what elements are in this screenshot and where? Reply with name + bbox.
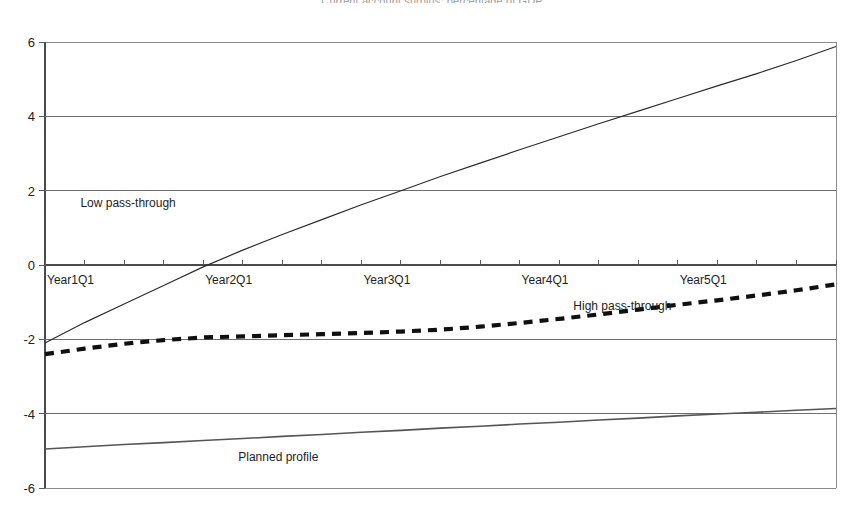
series-label-low-pass-through: Low pass-through bbox=[80, 196, 175, 210]
chart-plot-area: 6420-2-4-6 Year1Q1Year2Q1Year3Q1Year4Q1Y… bbox=[0, 0, 864, 518]
series-label-high-pass-through: High pass-through bbox=[573, 299, 671, 313]
x-tick-label-year3q1: Year3Q1 bbox=[363, 273, 410, 287]
y-tick-label: -6 bbox=[23, 481, 35, 496]
y-tick-label: -4 bbox=[23, 407, 35, 422]
data-series bbox=[45, 46, 836, 449]
series-label-planned-profile: Planned profile bbox=[238, 450, 318, 464]
y-tick-label: 6 bbox=[28, 35, 35, 50]
series-line-planned-profile bbox=[45, 408, 836, 449]
y-tick-label: -2 bbox=[23, 332, 35, 347]
x-axis-tick-marks bbox=[45, 260, 836, 265]
x-tick-label-year4q1: Year4Q1 bbox=[522, 273, 569, 287]
y-tick-label: 0 bbox=[28, 258, 35, 273]
y-tick-label: 4 bbox=[28, 109, 35, 124]
series-annotations: Low pass-throughHigh pass-throughPlanned… bbox=[80, 196, 671, 464]
series-line-high-pass-through bbox=[45, 284, 836, 354]
chart-figure: Current account surplus: percentage of G… bbox=[0, 0, 864, 518]
x-tick-label-year1q1: Year1Q1 bbox=[47, 273, 94, 287]
x-axis-tick-labels: Year1Q1Year2Q1Year3Q1Year4Q1Year5Q1 bbox=[47, 273, 727, 287]
x-tick-label-year5q1: Year5Q1 bbox=[680, 273, 727, 287]
x-tick-label-year2q1: Year2Q1 bbox=[205, 273, 252, 287]
y-axis-tick-labels: 6420-2-4-6 bbox=[23, 35, 35, 496]
y-tick-label: 2 bbox=[28, 184, 35, 199]
